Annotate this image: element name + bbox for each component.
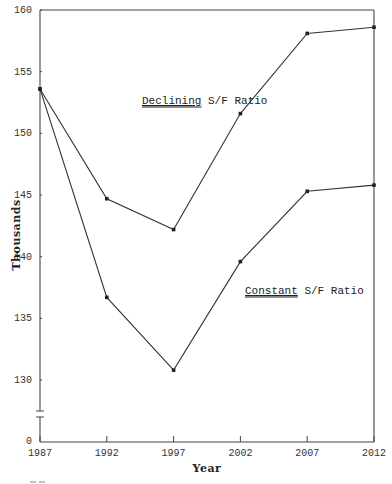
line-chart: 1301351401451501551600 19871992199720022… [0,0,392,484]
plot-frame [36,10,374,442]
x-tick-label: 2007 [295,448,319,459]
x-tick-label: 2002 [228,448,252,459]
x-tick-label: 1997 [162,448,186,459]
y-axis-title: Thousands [10,199,23,270]
x-axis-ticks: 198719921997200220072012 [28,436,386,459]
data-point-marker [172,368,176,372]
y-tick-label: 145 [14,190,32,201]
data-point-marker [172,228,176,232]
data-series [38,25,376,371]
data-point-marker [305,190,309,194]
x-tick-label: 1992 [95,448,119,459]
data-point-marker [372,183,376,187]
constant-series-line [40,89,374,370]
data-point-marker [38,87,42,91]
data-point-marker [105,296,109,300]
series-annotations: Declining S/F RatioConstant S/F Ratio [142,95,364,297]
x-tick-label: 2012 [362,448,386,459]
x-tick-label: 1987 [28,448,52,459]
y-tick-label: 130 [14,375,32,386]
data-point-marker [372,25,376,29]
x-axis-title: Year [192,462,222,475]
y-tick-label: 0 [26,436,32,447]
data-point-marker [239,260,243,264]
data-point-marker [239,112,243,116]
y-tick-label: 155 [14,67,32,78]
declining-series-label: Declining S/F Ratio [142,95,267,107]
data-point-marker [305,32,309,36]
constant-series-label: Constant S/F Ratio [245,285,364,297]
declining-series-line [40,27,374,229]
y-tick-label: 160 [14,5,32,16]
y-tick-label: 150 [14,128,32,139]
y-tick-label: 135 [14,313,32,324]
data-point-marker [105,197,109,201]
